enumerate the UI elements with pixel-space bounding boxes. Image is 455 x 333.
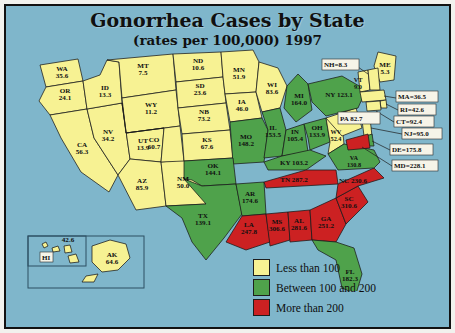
- svg-text:34.2: 34.2: [102, 135, 115, 143]
- state-CT[interactable]: [366, 101, 381, 111]
- state-label-OR: OR 24.1: [59, 87, 72, 102]
- state-label-NM: NM 50.0: [177, 175, 190, 190]
- svg-text:24.1: 24.1: [59, 94, 72, 102]
- svg-text:247.8: 247.8: [241, 228, 257, 236]
- svg-text:60.7: 60.7: [148, 143, 161, 151]
- svg-text:MD=228.1: MD=228.1: [394, 162, 426, 170]
- svg-text:148.2: 148.2: [238, 140, 254, 148]
- svg-text:153.5: 153.5: [265, 131, 281, 139]
- svg-text:13.3: 13.3: [99, 91, 112, 99]
- legend-label-high: More than 200: [276, 302, 344, 314]
- svg-text:11.2: 11.2: [145, 108, 157, 116]
- svg-text:64.6: 64.6: [106, 258, 119, 266]
- svg-text:85.9: 85.9: [136, 184, 149, 192]
- state-label-VT: VT 9.0: [354, 76, 364, 90]
- state-label-AZ: AZ 85.9: [136, 177, 149, 192]
- state-label-MT: MT 7.5: [137, 62, 149, 77]
- svg-text:CT=92.4: CT=92.4: [396, 118, 422, 126]
- svg-text:164.0: 164.0: [291, 99, 307, 107]
- legend-swatch-high: [253, 299, 270, 316]
- state-label-CA: CA 56.3: [76, 141, 89, 156]
- svg-text:51.9: 51.9: [233, 73, 246, 81]
- map-legend: Less than 100 Between 100 and 200 More t…: [253, 259, 376, 319]
- legend-swatch-mid: [253, 279, 270, 296]
- svg-text:MA=36.5: MA=36.5: [398, 93, 426, 101]
- legend-label-low: Less than 100: [276, 262, 340, 274]
- callout-NJ: NJ=95.0: [371, 128, 442, 139]
- state-MD[interactable]: [346, 134, 370, 150]
- svg-text:144.1: 144.1: [205, 169, 221, 177]
- svg-text:105.4: 105.4: [287, 135, 303, 143]
- callout-DE: DE=175.8: [372, 141, 433, 155]
- state-label-NY: NY 123.1: [325, 91, 353, 99]
- svg-text:130.8: 130.8: [347, 161, 361, 168]
- legend-label-mid: Between 100 and 200: [276, 282, 376, 294]
- svg-text:VA: VA: [350, 154, 359, 161]
- state-label-WI: WI 83.6: [266, 81, 279, 96]
- image-frame: Gonorrhea Cases by State (rates per 100,…: [0, 0, 455, 333]
- state-NH[interactable]: [368, 68, 380, 90]
- callout-RI: RI=42.6: [386, 104, 436, 115]
- svg-text:DE=175.8: DE=175.8: [392, 146, 422, 154]
- svg-text:23.6: 23.6: [194, 89, 207, 97]
- svg-text:VT: VT: [354, 76, 364, 83]
- legend-item-low: Less than 100: [253, 259, 376, 276]
- svg-text:NJ=95.0: NJ=95.0: [404, 130, 429, 138]
- state-RI[interactable]: [380, 100, 387, 108]
- svg-text:56.3: 56.3: [76, 148, 89, 156]
- svg-text:174.6: 174.6: [242, 197, 258, 205]
- state-label-NC: NC 230.6: [339, 177, 367, 185]
- svg-text:139.1: 139.1: [195, 219, 211, 227]
- state-label-ME: ME 5.3: [379, 61, 391, 76]
- svg-text:RI=42.6: RI=42.6: [400, 106, 425, 114]
- svg-text:310.6: 310.6: [341, 202, 357, 210]
- svg-text:NY 123.1: NY 123.1: [325, 91, 353, 99]
- state-label-AK: AK 64.6: [106, 251, 119, 266]
- svg-text:TN 287.2: TN 287.2: [280, 176, 308, 184]
- state-label-ND: ND 10.6: [192, 57, 205, 72]
- svg-text:67.6: 67.6: [201, 143, 214, 151]
- map-poster: Gonorrhea Cases by State (rates per 100,…: [4, 4, 451, 329]
- svg-text:WV: WV: [331, 128, 342, 135]
- state-label-MO: MO 148.2: [238, 133, 254, 148]
- state-label-HI-rate: 42.6: [62, 236, 75, 244]
- svg-text:35.6: 35.6: [56, 72, 69, 80]
- state-label-HI-box: HI: [40, 252, 53, 262]
- svg-text:9.0: 9.0: [354, 83, 362, 90]
- svg-text:HI: HI: [42, 254, 50, 262]
- state-label-KS: KS 67.6: [201, 136, 214, 151]
- state-label-WY: WY 11.2: [145, 101, 158, 116]
- svg-text:5.3: 5.3: [381, 68, 390, 76]
- svg-text:50.0: 50.0: [177, 182, 190, 190]
- svg-text:NC 230.6: NC 230.6: [339, 177, 367, 185]
- us-choropleth-map: WA 35.6 OR 24.1 CA 56.3 NV 34.2 ID 13.3 …: [6, 46, 451, 291]
- state-label-WV: WV 52.4: [330, 128, 342, 142]
- legend-item-mid: Between 100 and 200: [253, 279, 376, 296]
- svg-text:NH=8.3: NH=8.3: [324, 61, 348, 69]
- state-MA[interactable]: [360, 90, 386, 102]
- svg-text:73.2: 73.2: [198, 115, 211, 123]
- svg-text:52.4: 52.4: [330, 135, 342, 142]
- callout-PA[interactable]: PA 82.7: [338, 112, 380, 124]
- svg-text:7.5: 7.5: [139, 69, 148, 77]
- callout-MA: MA=36.5: [384, 91, 438, 102]
- svg-text:306.6: 306.6: [269, 225, 285, 233]
- svg-text:281.6: 281.6: [291, 224, 307, 232]
- svg-text:251.2: 251.2: [318, 222, 334, 230]
- state-label-NV: NV 34.2: [102, 128, 115, 143]
- svg-text:PA 82.7: PA 82.7: [340, 115, 363, 123]
- svg-text:83.6: 83.6: [266, 88, 279, 96]
- svg-text:10.6: 10.6: [192, 64, 205, 72]
- state-label-TN: TN 287.2: [280, 176, 308, 184]
- svg-text:133.9: 133.9: [309, 131, 325, 139]
- legend-swatch-low: [253, 259, 270, 276]
- state-label-WA: WA 35.6: [56, 65, 69, 80]
- page-title: Gonorrhea Cases by State: [6, 9, 449, 31]
- state-label-CO: CO 60.7: [148, 136, 161, 151]
- svg-text:KY 103.2: KY 103.2: [280, 159, 309, 167]
- state-label-MN: MN 51.9: [233, 66, 246, 81]
- svg-text:42.6: 42.6: [62, 236, 75, 244]
- svg-text:46.0: 46.0: [236, 105, 249, 113]
- state-label-NB: NB 73.2: [198, 108, 211, 123]
- legend-item-high: More than 200: [253, 299, 376, 316]
